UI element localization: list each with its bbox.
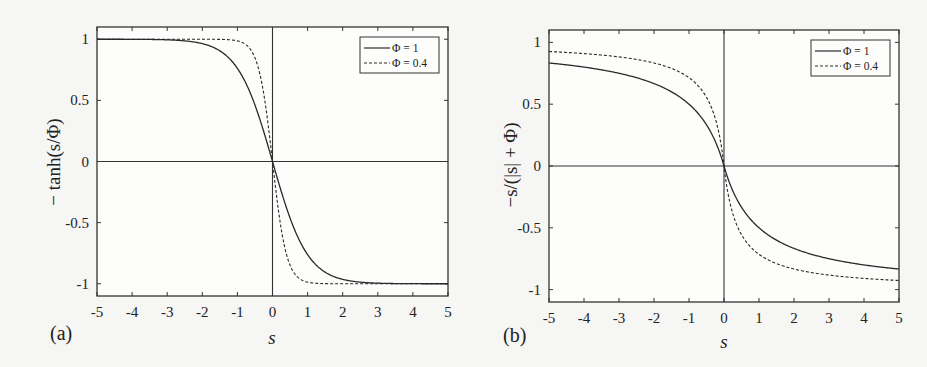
x-tick-label: 2 [790,310,798,326]
legend-label: Φ = 0.4 [392,57,427,69]
x-tick-label: -2 [196,304,209,320]
chart-panel-a: -5-4-3-2-101234510.50-0.5-1Φ = 1Φ = 0.4s… [43,27,452,348]
legend: Φ = 1Φ = 0.4 [360,37,439,73]
chart-panel-b: -5-4-3-2-101234510.50-0.5-1Φ = 1Φ = 0.4s… [500,30,903,352]
x-tick-label: -1 [231,304,244,320]
y-axis-label: − tanh(s/Φ) [43,118,65,205]
x-tick-label: -1 [683,310,696,326]
x-tick-label: 5 [895,310,903,326]
x-axis-label: s [268,327,275,348]
y-tick-label: 1 [82,31,90,47]
y-tick-label: 0 [534,158,542,174]
y-tick-label: 1 [534,34,542,50]
x-tick-label: -4 [126,304,139,320]
x-tick-label: 0 [720,310,728,326]
legend-label: Φ = 1 [392,42,419,54]
figure: -5-4-3-2-101234510.50-0.5-1Φ = 1Φ = 0.4s… [0,0,927,367]
y-tick-label: -1 [77,276,90,292]
x-tick-label: 3 [374,304,382,320]
x-tick-label: 4 [860,310,868,326]
x-tick-label: -5 [543,310,556,326]
x-tick-label: 0 [269,304,277,320]
legend-label: Φ = 1 [843,45,870,57]
x-tick-label: 1 [304,304,312,320]
x-tick-label: -3 [613,310,626,326]
x-tick-label: 4 [409,304,417,320]
panel-label: (b) [503,324,526,347]
x-tick-label: -2 [648,310,661,326]
y-axis-label: −s/(|s| + Φ) [500,122,522,207]
panel-label: (a) [50,322,72,345]
y-tick-label: -1 [529,282,542,298]
y-tick-label: -0.5 [65,215,89,231]
x-tick-label: -4 [578,310,591,326]
y-tick-label: 0.5 [522,96,541,112]
legend: Φ = 1Φ = 0.4 [811,40,890,76]
x-tick-label: 1 [755,310,763,326]
legend-label: Φ = 0.4 [843,60,878,72]
y-tick-label: 0 [82,154,90,170]
x-tick-label: 5 [444,304,452,320]
x-tick-label: -5 [91,304,104,320]
x-tick-label: 2 [339,304,347,320]
x-axis-label: s [720,331,727,352]
y-tick-label: -0.5 [517,220,541,236]
x-tick-label: 3 [825,310,833,326]
y-tick-label: 0.5 [70,92,89,108]
x-tick-label: -3 [161,304,174,320]
